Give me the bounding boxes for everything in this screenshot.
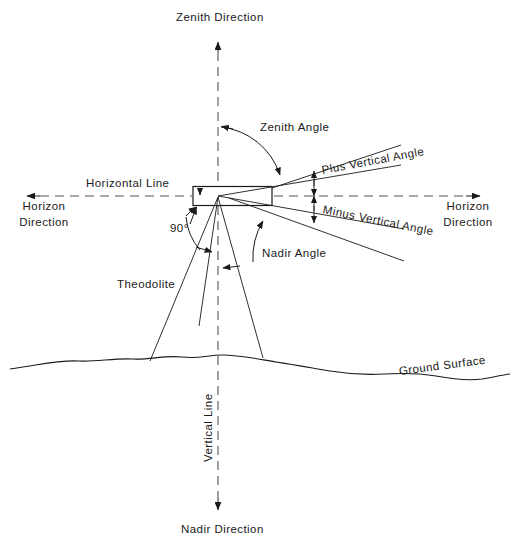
label-nadir-angle: Nadir Angle <box>262 246 326 262</box>
label-theodolite: Theodolite <box>117 277 175 293</box>
label-horizon-direction-right: Horizon Direction <box>428 199 508 230</box>
label-horizon-direction-right-line2: Direction <box>428 215 508 231</box>
label-zenith-angle: Zenith Angle <box>260 120 329 136</box>
label-nadir-direction: Nadir Direction <box>181 522 264 538</box>
theodolite-body-rect <box>193 187 272 206</box>
label-horizon-direction-left-line1: Horizon <box>6 199 82 215</box>
tripod-leg-right <box>218 197 263 358</box>
nadir-angle-arc-group <box>223 221 263 268</box>
tripod-leg-center <box>199 197 218 326</box>
label-horizon-direction-left-line2: Direction <box>6 215 82 231</box>
label-vertical-line: Vertical Line <box>201 394 217 463</box>
theodolite-body-group <box>193 187 272 206</box>
label-horizontal-line: Horizontal Line <box>86 176 169 192</box>
label-right-angle: 90° <box>170 221 189 237</box>
diagram-canvas <box>0 0 517 544</box>
label-zenith-direction: Zenith Direction <box>176 10 264 26</box>
label-horizon-direction-right-line1: Horizon <box>428 199 508 215</box>
label-horizon-direction-left: Horizon Direction <box>6 199 82 230</box>
sight-line-up <box>218 165 401 196</box>
right-angle-arc-group <box>186 207 212 252</box>
theodolite-diagram: Zenith Direction Zenith Angle Horizontal… <box>0 0 517 544</box>
